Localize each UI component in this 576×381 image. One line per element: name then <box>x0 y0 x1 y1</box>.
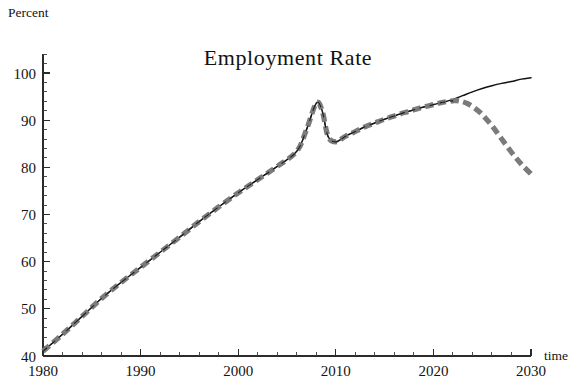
x-tick-label: 2030 <box>516 363 546 379</box>
series-line-overlay <box>43 101 453 351</box>
y-tick-label: 90 <box>21 113 36 129</box>
x-tick-label: 2010 <box>321 363 351 379</box>
y-tick-label: 60 <box>21 254 36 270</box>
x-tick-label: 1980 <box>28 363 58 379</box>
y-tick-label: 70 <box>21 207 36 223</box>
y-tick-label: 100 <box>14 66 37 82</box>
x-tick-label: 1990 <box>126 363 156 379</box>
y-axis-label: Percent <box>8 5 49 20</box>
employment-rate-chart: Percent Employment Rate time 19801990200… <box>0 0 576 381</box>
y-tick-label: 40 <box>21 349 36 365</box>
series-line-solid <box>43 78 531 352</box>
x-tick-label: 2000 <box>223 363 253 379</box>
x-axis-label: time <box>544 348 568 363</box>
series-line-dashed <box>43 101 531 352</box>
data-series <box>43 78 531 352</box>
y-tick-label: 80 <box>21 160 36 176</box>
chart-canvas: Percent Employment Rate time 19801990200… <box>0 0 576 381</box>
y-tick-label: 50 <box>21 301 36 317</box>
chart-title: Employment Rate <box>204 45 372 70</box>
x-tick-label: 2020 <box>418 363 448 379</box>
